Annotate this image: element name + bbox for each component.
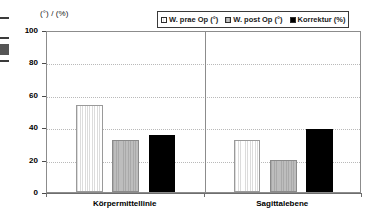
bar[interactable]	[112, 140, 139, 192]
legend-swatch-icon	[290, 17, 296, 23]
chart-legend: W. prae Op (°)W. post Op (°)Korrektur (%…	[157, 11, 349, 28]
x-axis-tick	[204, 193, 205, 197]
gridline	[47, 64, 360, 65]
x-axis-label: Körpermittellinie	[46, 199, 204, 208]
y-axis-title: (°) / (%)	[40, 9, 69, 18]
y-axis-tick	[42, 31, 46, 32]
legend-item[interactable]: Korrektur (%)	[290, 15, 346, 24]
y-axis-tick	[42, 63, 46, 64]
legend-label: W. post Op (°)	[233, 15, 282, 24]
bar[interactable]	[234, 140, 261, 192]
y-axis-tick	[42, 128, 46, 129]
bar[interactable]	[76, 105, 103, 192]
y-axis-label: 80	[0, 59, 38, 67]
plot-area	[46, 31, 361, 193]
legend-swatch-icon	[225, 17, 231, 23]
legend-label: Korrektur (%)	[298, 15, 346, 24]
bar[interactable]	[270, 160, 297, 192]
y-axis-label: 0	[0, 189, 38, 197]
gridline	[47, 97, 360, 98]
y-axis-label: 100	[0, 27, 38, 35]
legend-swatch-icon	[161, 17, 167, 23]
legend-item[interactable]: W. post Op (°)	[225, 15, 282, 24]
x-axis-tick	[46, 193, 47, 197]
bar[interactable]	[149, 135, 176, 192]
x-axis-tick	[361, 193, 362, 197]
y-axis-tick	[42, 96, 46, 97]
y-axis-label: 40	[0, 124, 38, 132]
plot-inner	[47, 32, 360, 192]
legend-label: W. prae Op (°)	[169, 15, 218, 24]
y-axis-label: 20	[0, 157, 38, 165]
legend-item[interactable]: W. prae Op (°)	[161, 15, 218, 24]
category-separator	[205, 32, 206, 192]
y-axis-label: 60	[0, 92, 38, 100]
edge-remnant-mark	[0, 17, 9, 19]
edge-remnant-mark	[0, 37, 9, 39]
bar-chart: (°) / (%) W. prae Op (°)W. post Op (°)Ko…	[0, 0, 374, 222]
edge-remnant-mark	[0, 44, 9, 55]
bar[interactable]	[306, 129, 333, 192]
x-axis-label: Sagittalebene	[204, 199, 362, 208]
y-axis-tick	[42, 161, 46, 162]
